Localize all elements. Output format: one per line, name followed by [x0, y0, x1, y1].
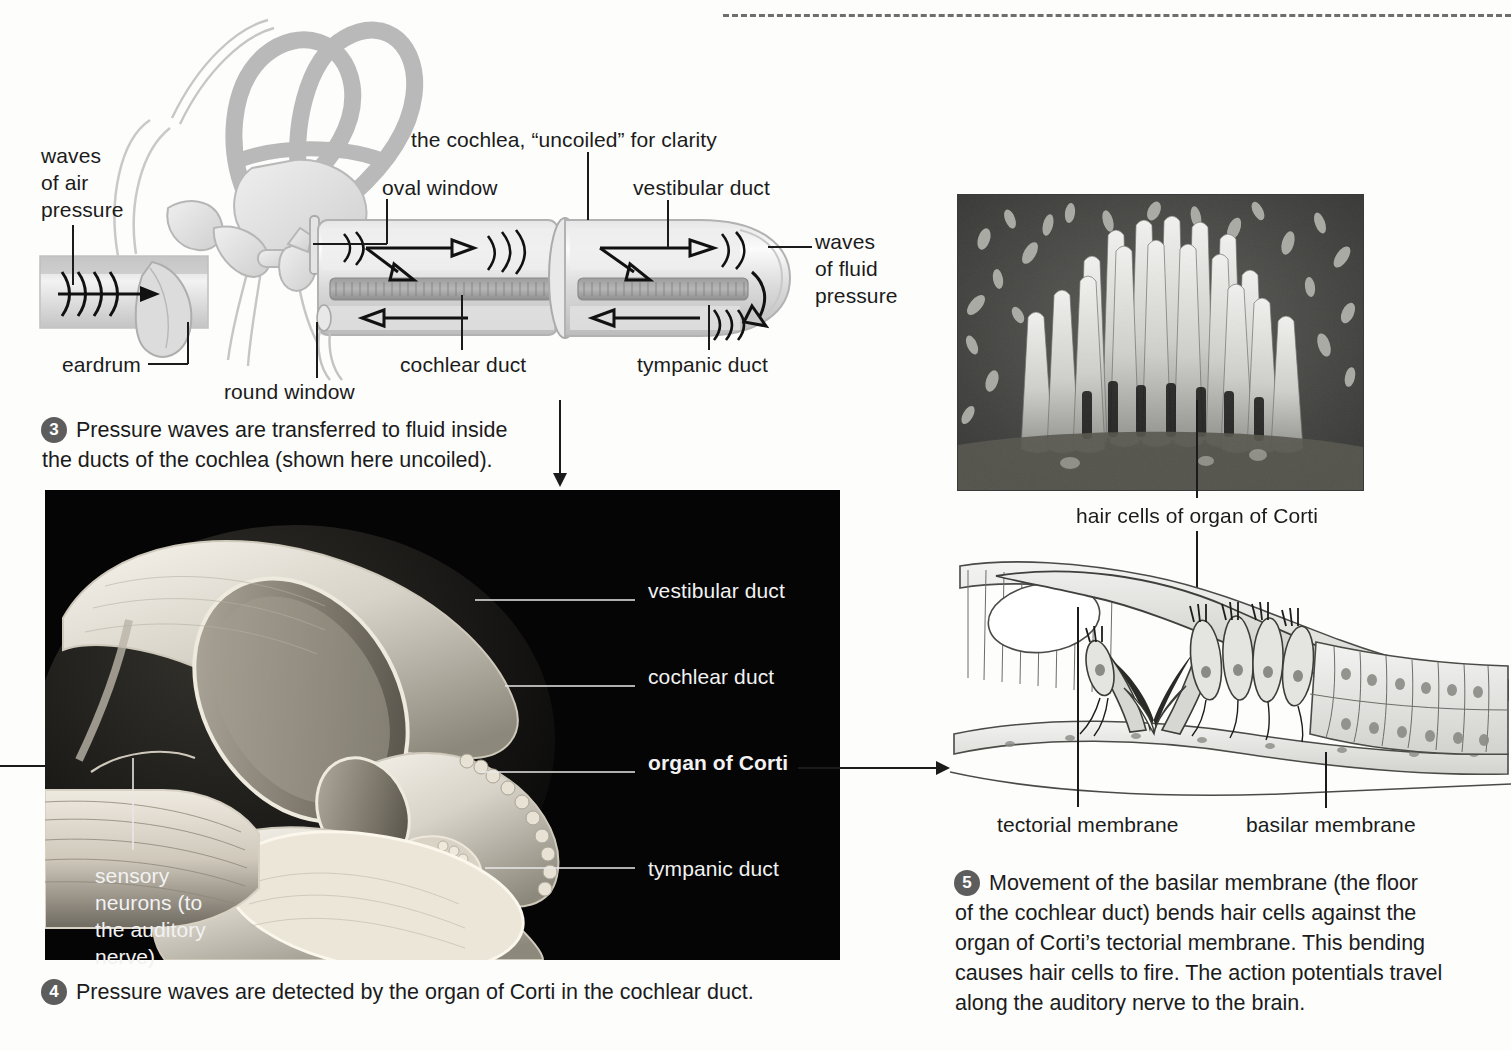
label-sensory-neurons: sensory neurons (to the auditory nerve) [95, 862, 206, 970]
arrow-to-cutaway-head [553, 473, 567, 487]
label-basilar-membrane: basilar membrane [1246, 812, 1416, 837]
label-organ-of-corti-cutaway: organ of Corti [648, 750, 788, 775]
hair-cell-micrograph [957, 194, 1364, 491]
label-line: neurons (to [95, 889, 206, 916]
leader-basilar-membrane [1325, 752, 1327, 808]
label-round-window: round window [224, 379, 355, 404]
label-line: waves [815, 228, 898, 255]
step-caption-5: Movement of the basilar membrane (the fl… [989, 868, 1509, 1018]
leader-hair-cells-upper [1196, 400, 1198, 498]
leader-oval-window-h [313, 243, 387, 245]
figure-page: waves of air pressure eardrum round wind… [0, 0, 1511, 1051]
label-line: pressure [815, 282, 898, 309]
leader-waves-of-air-pressure [72, 225, 74, 285]
caption-line: Movement of the basilar membrane (the fl… [989, 868, 1509, 898]
leader-oval-window-v [386, 199, 388, 244]
label-vestibular-duct-top: vestibular duct [633, 175, 770, 200]
caption-line: of the cochlear duct) bends hair cells a… [955, 898, 1509, 928]
label-line: the auditory [95, 916, 206, 943]
label-line: waves [41, 142, 124, 169]
caption-line: Pressure waves are transferred to fluid … [76, 415, 596, 445]
leader-tympanic-duct-top [708, 305, 710, 350]
caption-line: along the auditory nerve to the brain. [955, 988, 1509, 1018]
label-eardrum: eardrum [62, 352, 141, 377]
arrow-to-cross-section-head [936, 761, 950, 775]
arrow-to-cross-section-shaft [798, 767, 938, 769]
label-line: pressure [41, 196, 124, 223]
label-tympanic-duct-top: tympanic duct [637, 352, 768, 377]
step-marker-4: 4 [41, 979, 67, 1005]
label-tectorial-membrane: tectorial membrane [997, 812, 1179, 837]
hair-cell-micrograph-image [958, 195, 1363, 490]
label-line: of fluid [815, 255, 898, 282]
label-cochlear-duct-top: cochlear duct [400, 352, 526, 377]
leader-tectorial-membrane [1077, 607, 1079, 807]
label-cochlear-duct-cutaway: cochlear duct [648, 664, 774, 689]
label-hair-cells-of-organ-of-corti: hair cells of organ of Corti [1076, 503, 1318, 528]
step-caption-4: Pressure waves are detected by the organ… [76, 977, 776, 1007]
arrow-to-cutaway-shaft [559, 400, 561, 475]
label-line: sensory [95, 862, 206, 889]
label-tympanic-duct-cutaway: tympanic duct [648, 856, 779, 881]
caption-line: causes hair cells to fire. The action po… [955, 958, 1509, 988]
label-waves-of-fluid-pressure: waves of fluid pressure [815, 228, 898, 309]
leader-waves-of-fluid-pressure [768, 246, 812, 248]
leader-cochlea-uncoiled-title [587, 152, 589, 220]
leader-cochlear-duct-top [461, 295, 463, 350]
label-waves-of-air-pressure: waves of air pressure [41, 142, 124, 223]
leader-round-window [316, 322, 318, 378]
caption-line: the ducts of the cochlea (shown here unc… [42, 445, 596, 475]
organ-of-corti-cross-section [950, 548, 1511, 813]
label-oval-window: oval window [382, 175, 498, 200]
leader-eardrum-h [148, 363, 188, 365]
step-marker-3: 3 [41, 417, 67, 443]
leader-left-margin [0, 765, 46, 767]
step-marker-5: 5 [954, 870, 980, 896]
caption-line: organ of Corti’s tectorial membrane. Thi… [955, 928, 1509, 958]
leader-vestibular-duct-top [667, 200, 669, 248]
step-caption-3: Pressure waves are transferred to fluid … [76, 415, 596, 475]
leader-eardrum-v [187, 322, 189, 364]
label-line: nerve) [95, 943, 206, 970]
label-cochlea-uncoiled-title: the cochlea, “uncoiled” for clarity [411, 127, 717, 152]
label-vestibular-duct-cutaway: vestibular duct [648, 578, 785, 603]
label-line: of air [41, 169, 124, 196]
